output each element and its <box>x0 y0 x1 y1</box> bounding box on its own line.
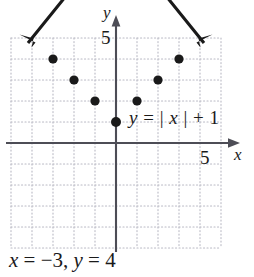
answer-x-variable: x <box>9 248 18 272</box>
equation-annotation: y = | x | + 1 <box>129 108 219 127</box>
equation-plus-sign: + <box>193 107 204 128</box>
answer-x-equals-sign: = <box>24 248 36 272</box>
plot-point <box>90 96 99 105</box>
y-axis-label: y <box>103 4 111 21</box>
equation-equals-sign: = <box>143 107 154 128</box>
plot-point <box>69 75 78 84</box>
x-axis-tick-label-5: 5 <box>200 148 210 167</box>
axes <box>6 22 231 252</box>
plot-point <box>132 96 141 105</box>
absolute-value-bar-close: | <box>183 107 187 128</box>
plot-point <box>48 54 57 63</box>
y-axis-arrowhead <box>112 15 121 27</box>
absolute-value-bar-open: | <box>160 107 164 128</box>
answer-x-value: −3, <box>41 248 69 272</box>
x-axis-label: x <box>234 146 242 163</box>
answer-y-value: 4 <box>105 248 116 272</box>
equation-variable: x <box>169 107 178 128</box>
plot-point-vertex <box>111 117 121 127</box>
equation-lhs: y <box>129 107 138 128</box>
plot-point <box>153 75 162 84</box>
plot-point <box>174 54 183 63</box>
answer-caption: x = −3, y = 4 <box>9 250 116 271</box>
equation-constant: 1 <box>209 107 219 128</box>
answer-y-variable: y <box>74 248 83 272</box>
absolute-value-graph-figure: y x 5 5 y = | x | + 1 x = −3, y = 4 <box>0 0 254 277</box>
answer-y-equals-sign: = <box>88 248 100 272</box>
y-axis-tick-label-5: 5 <box>101 28 111 47</box>
graph-canvas <box>0 0 254 277</box>
